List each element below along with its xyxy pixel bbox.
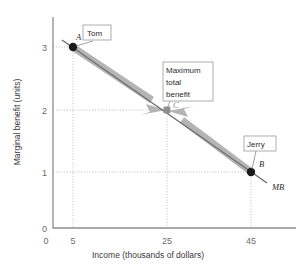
maximum-callout-line3: benefit [166, 90, 191, 99]
tom-callout: Tom [76, 25, 111, 46]
gridlines [53, 47, 251, 228]
x-axis-tick-labels: 0 5 25 45 [43, 236, 256, 246]
x-tick-label-45: 45 [246, 236, 256, 246]
jerry-callout-text: Jerry [247, 140, 265, 149]
point-b-marker [247, 168, 255, 176]
y-tick-label-1: 1 [42, 168, 47, 178]
tom-callout-text: Tom [87, 29, 102, 38]
y-tick-label-0: 0 [42, 224, 47, 234]
y-axis-title: Marginal benefit (units) [12, 79, 22, 166]
chart-figure: A C B MB Tom Maximum total benefit Jerry… [0, 0, 305, 268]
maximum-callout: Maximum total benefit [163, 62, 213, 109]
x-axis-title: Income (thousands of dollars) [92, 250, 204, 260]
point-b-label: B [259, 159, 264, 169]
y-tick-label-2: 2 [42, 106, 47, 116]
point-a-label: A [75, 32, 82, 42]
point-c-marker [164, 107, 171, 114]
marginal-benefit-chart: A C B MB Tom Maximum total benefit Jerry… [0, 0, 305, 268]
point-a-marker [69, 43, 77, 51]
jerry-leader-line [252, 151, 256, 169]
point-c-label: C [173, 100, 179, 110]
y-tick-label-3: 3 [42, 43, 47, 53]
y-axis-tick-labels: 3 2 1 0 [42, 43, 47, 234]
maximum-callout-line2: total [166, 78, 181, 87]
x-tick-label-25: 25 [162, 236, 172, 246]
x-tick-label-0: 0 [43, 236, 48, 246]
axes [53, 17, 296, 229]
arrowhead-toward-c-from-b [168, 106, 194, 117]
maximum-callout-line1: Maximum [166, 66, 201, 75]
mb-curve-label: MB [271, 182, 284, 192]
x-tick-label-5: 5 [70, 236, 75, 246]
